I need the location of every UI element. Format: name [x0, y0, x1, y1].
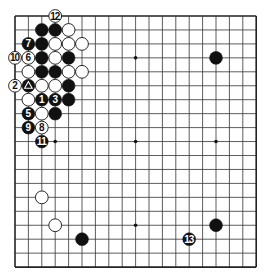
black-stone [35, 38, 48, 51]
white-stone [62, 38, 75, 51]
white-stone [35, 191, 48, 204]
black-stone-9: 9 [22, 121, 35, 134]
white-stone-6: 6 [22, 51, 35, 64]
move-number: 5 [26, 108, 32, 119]
white-stone [35, 79, 48, 92]
white-stone [76, 38, 89, 51]
move-number: 7 [26, 38, 32, 49]
black-stone [49, 24, 62, 37]
star-point [53, 140, 57, 144]
white-stone-12: 12 [49, 10, 62, 23]
move-number: 8 [39, 122, 45, 133]
white-stone [49, 38, 62, 51]
move-number: 2 [12, 80, 18, 91]
move-number: 13 [184, 234, 194, 245]
move-number: 10 [10, 52, 20, 63]
black-stone [35, 24, 48, 37]
black-stone [35, 65, 48, 78]
white-stone [22, 65, 35, 78]
go-board-svg: 1271062135981113 [0, 0, 266, 276]
white-stone [22, 93, 35, 106]
white-stone-10: 10 [9, 51, 22, 64]
black-stone [76, 233, 89, 246]
black-stone [210, 51, 223, 64]
black-stone [22, 79, 35, 92]
white-stone [76, 65, 89, 78]
white-stone [49, 219, 62, 232]
black-stone-1: 1 [35, 93, 48, 106]
black-stone-5: 5 [22, 107, 35, 120]
move-number: 6 [26, 52, 32, 63]
move-number: 12 [50, 11, 60, 22]
move-number: 3 [52, 94, 58, 105]
white-stone [35, 107, 48, 120]
move-number: 11 [37, 136, 47, 147]
black-stone [49, 65, 62, 78]
star-point [134, 56, 138, 60]
black-stone-11: 11 [35, 135, 48, 148]
move-number: 9 [26, 122, 32, 133]
star-point [134, 223, 138, 227]
black-stone [62, 93, 75, 106]
move-number: 1 [39, 94, 45, 105]
white-stone [49, 79, 62, 92]
black-stone [62, 79, 75, 92]
white-stone [49, 51, 62, 64]
star-point [134, 140, 138, 144]
black-stone [35, 51, 48, 64]
go-board: 1271062135981113 [0, 0, 266, 276]
white-stone-8: 8 [35, 121, 48, 134]
white-stone-2: 2 [9, 79, 22, 92]
black-stone-7: 7 [22, 38, 35, 51]
black-stone-13: 13 [183, 233, 196, 246]
black-stone [49, 107, 62, 120]
black-stone-3: 3 [49, 93, 62, 106]
black-stone [62, 51, 75, 64]
white-stone [62, 24, 75, 37]
black-stone [210, 219, 223, 232]
star-point [214, 140, 218, 144]
white-stone [62, 65, 75, 78]
